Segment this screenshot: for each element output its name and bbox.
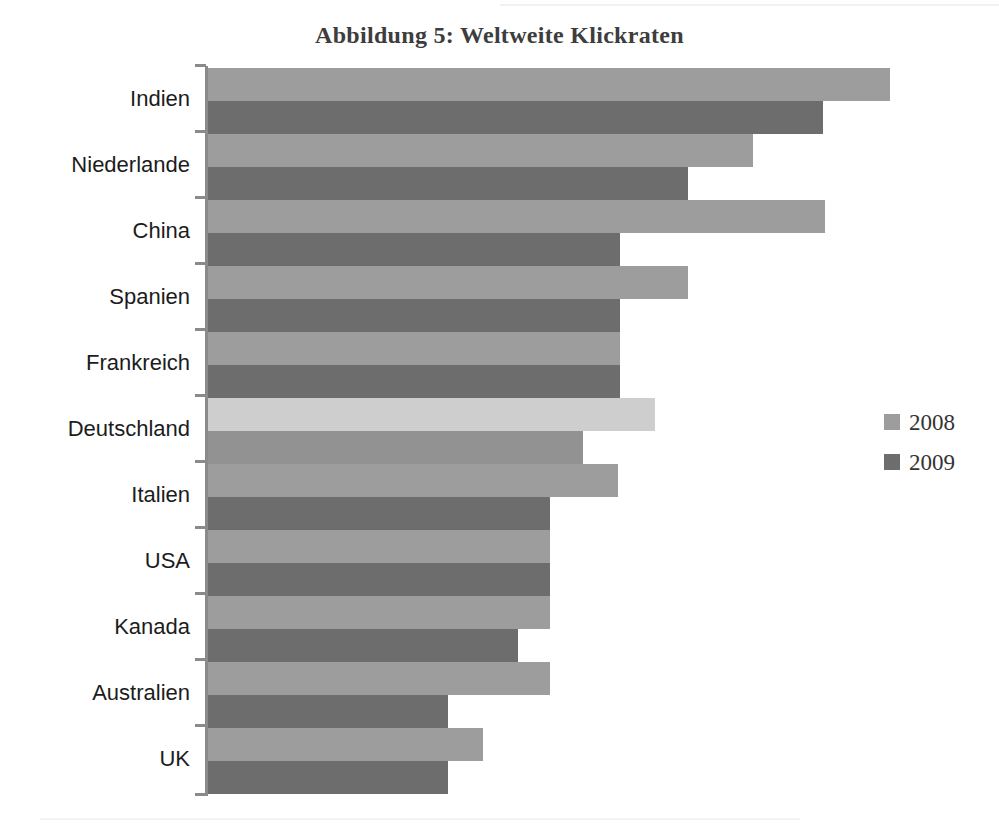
- category-label: China: [15, 218, 190, 244]
- plot-area: IndienNiederlandeChinaSpanienFrankreichD…: [0, 0, 999, 827]
- legend-label: 2008: [909, 411, 955, 434]
- axis-tick-end: [195, 793, 206, 796]
- axis-tick: [195, 724, 206, 727]
- legend-swatch-icon: [884, 414, 900, 430]
- axis-tick: [195, 130, 206, 133]
- bar-2009: [208, 563, 550, 596]
- axis-tick: [195, 328, 206, 331]
- figure-container: Abbildung 5: Weltweite Klickraten Indien…: [0, 0, 999, 827]
- axis-tick: [195, 196, 206, 199]
- axis-tick: [195, 394, 206, 397]
- legend-item: 2009: [884, 442, 994, 482]
- bar-2009: [208, 497, 550, 530]
- bar-2008: [208, 134, 753, 167]
- bar-2009: [208, 299, 620, 332]
- bar-2009: [208, 101, 823, 134]
- axis-tick: [195, 592, 206, 595]
- legend-swatch-icon: [884, 454, 900, 470]
- category-label: USA: [15, 548, 190, 574]
- bar-2008: [208, 332, 620, 365]
- bar-2008: [208, 662, 550, 695]
- legend-item: 2008: [884, 402, 994, 442]
- bar-2008: [208, 200, 825, 233]
- legend-label: 2009: [909, 451, 955, 474]
- bar-2008: [208, 596, 550, 629]
- bar-2009: [208, 233, 620, 266]
- axis-tick: [195, 262, 206, 265]
- category-label: UK: [15, 746, 190, 772]
- bar-2009: [208, 695, 448, 728]
- category-label: Deutschland: [15, 416, 190, 442]
- bar-2009: [208, 365, 620, 398]
- bar-2008: [208, 728, 483, 761]
- axis-tick: [195, 526, 206, 529]
- bar-2008: [208, 530, 550, 563]
- bar-2009: [208, 761, 448, 794]
- chart-legend: 20082009: [884, 402, 994, 482]
- bar-2008: [208, 464, 618, 497]
- category-label: Kanada: [15, 614, 190, 640]
- axis-tick: [195, 658, 206, 661]
- category-label: Spanien: [15, 284, 190, 310]
- axis-tick: [195, 460, 206, 463]
- bar-2009: [208, 167, 688, 200]
- category-label: Indien: [15, 86, 190, 112]
- category-label: Frankreich: [15, 350, 190, 376]
- category-label: Australien: [15, 680, 190, 706]
- bar-2009: [208, 431, 583, 464]
- bar-2008: [208, 398, 655, 431]
- bar-2008: [208, 266, 688, 299]
- bar-2008: [208, 68, 890, 101]
- axis-tick: [195, 64, 206, 67]
- category-label: Italien: [15, 482, 190, 508]
- category-label: Niederlande: [15, 152, 190, 178]
- bar-2009: [208, 629, 518, 662]
